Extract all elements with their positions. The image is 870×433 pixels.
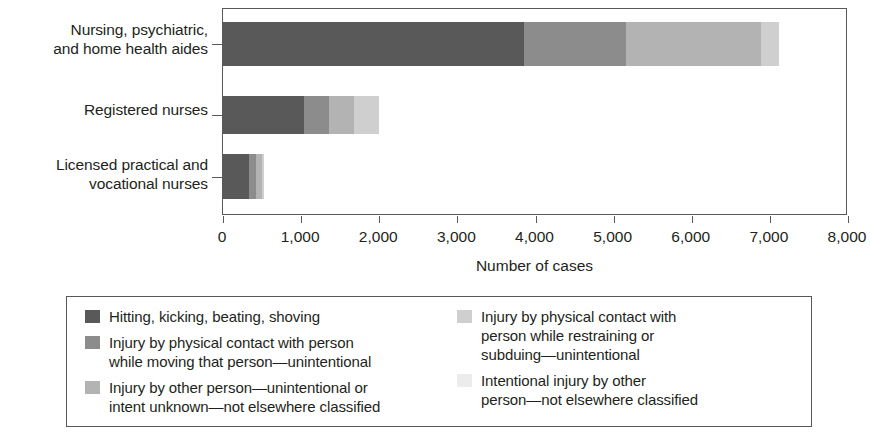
bar-segment xyxy=(223,154,249,199)
legend-color-swatch xyxy=(85,336,100,349)
x-axis-tick-label: 5,000 xyxy=(593,228,632,246)
legend-color-swatch xyxy=(457,310,472,323)
y-axis-tick-mark xyxy=(212,44,223,45)
x-axis-tick-label: 2,000 xyxy=(359,228,398,246)
bar-segment xyxy=(626,22,761,66)
legend-label-line: Injury by physical contact with person xyxy=(109,333,371,352)
category-label-line: and home health aides xyxy=(0,39,208,58)
x-axis-title: Number of cases xyxy=(222,257,847,275)
x-axis-tick-mark xyxy=(848,216,849,223)
legend-label-line: while moving that person—unintentional xyxy=(109,352,371,371)
legend-color-swatch xyxy=(85,381,100,394)
x-axis-tick-label: 0 xyxy=(218,228,227,246)
stacked-bar xyxy=(223,154,264,199)
category-label-line: Registered nurses xyxy=(0,100,208,119)
x-axis-tick-label: 3,000 xyxy=(437,228,476,246)
x-axis-tick-mark xyxy=(223,216,224,223)
bar-segment xyxy=(304,96,329,134)
x-axis-tick-label: 4,000 xyxy=(515,228,554,246)
bar-segment xyxy=(223,96,304,134)
y-axis-category-label: Registered nurses xyxy=(0,100,208,119)
legend-color-swatch xyxy=(85,310,100,323)
y-axis-tick-mark xyxy=(212,177,223,178)
legend-column-right: Injury by physical contact withperson wh… xyxy=(457,307,797,416)
chart-legend: Hitting, kicking, beating, shovingInjury… xyxy=(66,296,812,427)
legend-color-swatch xyxy=(457,374,472,387)
x-axis-tick-mark xyxy=(614,216,615,223)
x-axis-tick-labels: 01,0002,0003,0004,0005,0006,0007,0008,00… xyxy=(0,228,870,250)
legend-label: Hitting, kicking, beating, shoving xyxy=(109,307,320,326)
bar-chart-figure: Nursing, psychiatric,and home health aid… xyxy=(0,0,870,290)
legend-label-line: Injury by physical contact with xyxy=(481,307,676,326)
legend-label-line: subduing—unintentional xyxy=(481,345,676,364)
legend-label: Intentional injury by otherperson—not el… xyxy=(481,371,698,409)
y-axis-category-labels: Nursing, psychiatric,and home health aid… xyxy=(0,0,208,215)
stacked-bar xyxy=(223,22,779,66)
legend-label-line: Hitting, kicking, beating, shoving xyxy=(109,307,320,326)
legend-item: Intentional injury by otherperson—not el… xyxy=(457,371,797,409)
x-axis-tick-mark xyxy=(379,216,380,223)
category-label-line: Nursing, psychiatric, xyxy=(0,20,208,39)
legend-label-line: Intentional injury by other xyxy=(481,371,698,390)
legend-item: Injury by physical contact withperson wh… xyxy=(457,307,797,364)
x-axis-tick-mark xyxy=(536,216,537,223)
bar-segment xyxy=(249,154,256,199)
legend-label-line: person—not elsewhere classified xyxy=(481,390,698,409)
bar-segment xyxy=(262,154,264,199)
x-axis-tick-label: 6,000 xyxy=(671,228,710,246)
plot-area xyxy=(222,8,847,215)
legend-label: Injury by physical contact withperson wh… xyxy=(481,307,676,364)
bar-segment xyxy=(524,22,626,66)
bar-segment xyxy=(329,96,354,134)
bar-segment xyxy=(223,22,524,66)
category-label-line: Licensed practical and xyxy=(0,155,208,174)
stacked-bar xyxy=(223,96,379,134)
bar-segment xyxy=(761,22,779,66)
legend-label: Injury by physical contact with personwh… xyxy=(109,333,371,371)
y-axis-category-label: Licensed practical andvocational nurses xyxy=(0,155,208,193)
legend-label-line: intent unknown—not elsewhere classified xyxy=(109,397,380,416)
bar-segment xyxy=(354,96,379,134)
x-axis-tick-mark xyxy=(770,216,771,223)
y-axis-category-label: Nursing, psychiatric,and home health aid… xyxy=(0,20,208,58)
legend-item: Hitting, kicking, beating, shoving xyxy=(85,307,440,326)
x-axis-tick-mark xyxy=(692,216,693,223)
y-axis-tick-mark xyxy=(212,115,223,116)
legend-label-line: Injury by other person—unintentional or xyxy=(109,378,380,397)
x-axis-tick-mark xyxy=(301,216,302,223)
legend-item: Injury by physical contact with personwh… xyxy=(85,333,440,371)
legend-label-line: person while restraining or xyxy=(481,326,676,345)
x-axis-tick-label: 7,000 xyxy=(749,228,788,246)
category-label-line: vocational nurses xyxy=(0,174,208,193)
x-axis-tick-label: 1,000 xyxy=(281,228,320,246)
x-axis-tick-mark xyxy=(457,216,458,223)
x-axis-tick-label: 8,000 xyxy=(828,228,867,246)
legend-label: Injury by other person—unintentional ori… xyxy=(109,378,380,416)
legend-item: Injury by other person—unintentional ori… xyxy=(85,378,440,416)
legend-column-left: Hitting, kicking, beating, shovingInjury… xyxy=(85,307,440,423)
